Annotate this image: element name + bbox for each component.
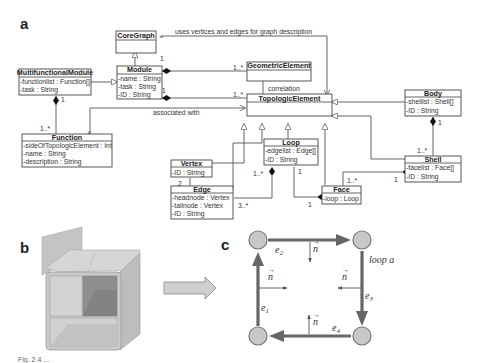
svg-text:→: →: [313, 311, 320, 319]
svg-text:-shellist : Shell[]: -shellist : Shell[]: [406, 98, 454, 106]
panel-label-b: b: [20, 239, 29, 256]
assoc-uses-label: uses vertices and edges for graph descri…: [175, 28, 312, 36]
svg-text:-ID : String: -ID : String: [172, 210, 205, 218]
svg-text:Body: Body: [424, 89, 442, 98]
svg-text:-facelist : Face[]: -facelist : Face[]: [406, 164, 454, 172]
svg-text:TopologicElement: TopologicElement: [259, 94, 321, 103]
svg-text:-ID : String: -ID : String: [118, 91, 151, 99]
svg-text:Vertex: Vertex: [181, 159, 203, 168]
svg-text:-ID : String: -ID : String: [406, 173, 439, 181]
svg-text:3..*: 3..*: [238, 202, 249, 209]
solid-model-illustration: [42, 227, 140, 350]
svg-text:-loop : Loop: -loop : Loop: [323, 195, 359, 203]
svg-text:Shell: Shell: [424, 155, 441, 164]
svg-text:→: →: [313, 238, 320, 246]
svg-text:1..*: 1..*: [233, 64, 244, 71]
panel-label-a: a: [20, 15, 29, 32]
transform-arrow: [164, 277, 216, 299]
uml-connectors: × ×: [56, 32, 433, 199]
loop-graph: n → n → n → n → e2 e3 e4 e1 loop a: [249, 231, 394, 345]
class-body: Body -shellist : Shell[] -ID : String: [405, 89, 461, 117]
svg-text:→: →: [342, 266, 349, 274]
svg-text:-name : String: -name : String: [23, 150, 66, 158]
class-geometric-element: GeometricElement: [247, 61, 311, 81]
svg-text:1..*: 1..*: [417, 147, 428, 154]
svg-text:1..*: 1..*: [347, 177, 358, 184]
svg-text:MultifunctionalModule: MultifunctionalModule: [17, 68, 93, 77]
svg-text:×: ×: [159, 32, 164, 41]
svg-text:GeometricElement: GeometricElement: [247, 61, 311, 70]
svg-text:e2: e2: [275, 244, 283, 257]
class-face: Face -loop : Loop: [322, 185, 361, 205]
svg-text:Module: Module: [127, 65, 152, 74]
svg-text:-ID : String: -ID : String: [172, 169, 205, 177]
svg-text:-name : String: -name : String: [118, 75, 161, 83]
loop-label: loop a: [369, 254, 394, 265]
svg-text:-task : String: -task : String: [118, 83, 156, 91]
svg-text:1..*: 1..*: [40, 125, 51, 132]
figure-caption: Fig. 2.4 ...: [18, 356, 49, 363]
vertex-node: [249, 327, 267, 345]
svg-text:-description : String: -description : String: [23, 158, 82, 166]
svg-text:-functionlist : Function[]: -functionlist : Function[]: [20, 78, 90, 86]
multiplicities: 1 1..* 1 1..* 1 1..* 2 1..* 1..* 3..* 1 …: [40, 55, 442, 209]
svg-text:-sideOfTopologicElement : Int: -sideOfTopologicElement : Int: [23, 142, 112, 150]
svg-text:-edgelist : Edge[]: -edgelist : Edge[]: [265, 147, 316, 155]
svg-text:Function: Function: [52, 133, 82, 142]
svg-text:Face: Face: [333, 185, 349, 194]
class-vertex: Vertex -ID : String: [171, 159, 212, 178]
svg-text:e4: e4: [332, 322, 340, 335]
svg-text:1: 1: [162, 87, 166, 94]
class-shell: Shell -facelist : Face[] -ID : String: [405, 155, 461, 183]
svg-text:1: 1: [298, 168, 302, 175]
svg-text:1..*: 1..*: [253, 170, 264, 177]
svg-text:1: 1: [61, 96, 65, 103]
svg-text:1: 1: [394, 176, 398, 183]
svg-text:-task : String: -task : String: [20, 86, 58, 94]
class-name: CoreGraph: [117, 31, 155, 40]
svg-text:-ID : String: -ID : String: [265, 156, 298, 164]
svg-text:Edge: Edge: [193, 185, 211, 194]
class-multifunctional-module: MultifunctionalModule -functionlist : Fu…: [17, 68, 93, 95]
svg-text:e3: e3: [365, 290, 373, 303]
svg-text:1..*: 1..*: [233, 91, 244, 98]
svg-text:-headnode : Vertex: -headnode : Vertex: [172, 194, 230, 201]
svg-text:2: 2: [178, 180, 182, 187]
svg-text:1: 1: [160, 55, 164, 62]
class-loop: Loop -edgelist : Edge[] -ID : String: [264, 138, 318, 166]
svg-text:→: →: [268, 266, 275, 274]
svg-text:-ID : String: -ID : String: [406, 107, 439, 115]
assoc-correlation-label: correlation: [268, 85, 300, 92]
class-topologic-element: TopologicElement: [247, 94, 332, 117]
panel-label-c: c: [221, 236, 229, 253]
class-module: Module -name : String -task : String -ID…: [117, 65, 162, 99]
class-coregraph: CoreGraph: [116, 31, 156, 54]
class-function: Function -sideOfTopologicElement : Int -…: [22, 133, 112, 168]
figure-canvas: a × ×: [0, 0, 477, 363]
svg-text:1: 1: [438, 119, 442, 126]
svg-text:1: 1: [308, 201, 312, 208]
svg-text:-tailnode : Vertex: -tailnode : Vertex: [172, 202, 224, 209]
vertex-node: [249, 231, 267, 249]
assoc-associated-label: associated with: [153, 109, 200, 116]
vertex-node: [353, 327, 371, 345]
class-edge: Edge -headnode : Vertex -tailnode : Vert…: [171, 185, 233, 220]
svg-text:Loop: Loop: [282, 138, 300, 147]
svg-text:e1: e1: [261, 302, 269, 315]
vertex-node: [353, 231, 371, 249]
